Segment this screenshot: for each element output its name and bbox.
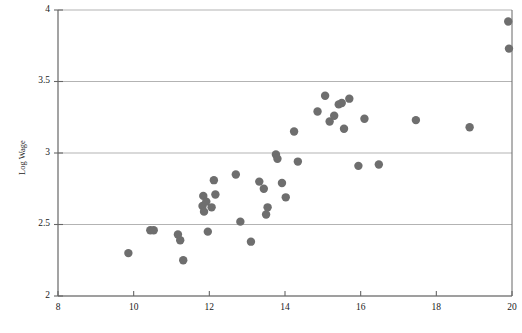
data-point — [176, 236, 184, 244]
x-tick-label: 12 — [195, 303, 223, 313]
scatter-chart-figure: 8101214161820 22.533.54 Log Wage — [0, 0, 522, 333]
data-point — [294, 157, 302, 165]
data-point — [505, 44, 513, 52]
data-point — [211, 190, 219, 198]
data-point — [465, 123, 473, 131]
x-tick-label: 16 — [347, 303, 375, 313]
data-point — [330, 112, 338, 120]
x-tick-label: 8 — [44, 303, 72, 313]
data-point — [375, 160, 383, 168]
x-tick-label: 20 — [498, 303, 522, 313]
data-point — [278, 179, 286, 187]
x-tick-label: 14 — [271, 303, 299, 313]
data-points-group — [124, 17, 513, 264]
data-point — [232, 170, 240, 178]
plot-canvas — [0, 0, 522, 333]
data-point — [354, 162, 362, 170]
y-tick-label: 4 — [20, 5, 50, 15]
data-point — [282, 193, 290, 201]
data-point — [200, 207, 208, 215]
y-tick-label: 2.5 — [20, 219, 50, 229]
data-point — [345, 94, 353, 102]
data-point — [263, 203, 271, 211]
data-point — [321, 92, 329, 100]
data-point — [204, 227, 212, 235]
data-point — [236, 217, 244, 225]
data-point — [338, 99, 346, 107]
data-point — [273, 155, 281, 163]
data-point — [124, 249, 132, 257]
data-point — [412, 116, 420, 124]
data-point — [313, 107, 321, 115]
data-point — [360, 114, 368, 122]
data-point — [260, 185, 268, 193]
data-point — [290, 127, 298, 135]
x-tick-label: 18 — [422, 303, 450, 313]
data-point — [179, 256, 187, 264]
data-point — [504, 17, 512, 25]
data-point — [255, 177, 263, 185]
data-point — [340, 124, 348, 132]
y-tick-label: 3.5 — [20, 76, 50, 86]
x-tick-label: 10 — [120, 303, 148, 313]
data-point — [262, 210, 270, 218]
data-point — [247, 237, 255, 245]
y-axis-title: Log Wage — [18, 140, 27, 175]
data-point — [210, 176, 218, 184]
data-point — [207, 203, 215, 211]
data-point — [150, 226, 158, 234]
y-tick-label: 2 — [20, 291, 50, 301]
